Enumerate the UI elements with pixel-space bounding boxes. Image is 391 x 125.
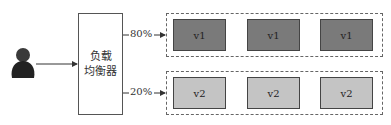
v2-instance-group: v2 v2 v2 [166, 71, 383, 115]
v2-instance: v2 [173, 77, 226, 109]
v2-instance: v2 [247, 77, 300, 109]
v1-instance: v1 [320, 19, 373, 51]
load-balancer-label-line1: 负载 [90, 49, 112, 64]
load-balancer-label-line2: 均衡器 [84, 64, 117, 79]
v1-instance: v1 [173, 19, 226, 51]
user-icon [10, 46, 38, 80]
route-percent-v1: 80% [130, 28, 152, 39]
v2-instance: v2 [320, 77, 373, 109]
route-percent-v2: 20% [130, 86, 152, 97]
v1-instance: v1 [247, 19, 300, 51]
v1-instance-group: v1 v1 v1 [166, 13, 383, 57]
load-balancer-box: 负载 均衡器 [78, 13, 123, 115]
